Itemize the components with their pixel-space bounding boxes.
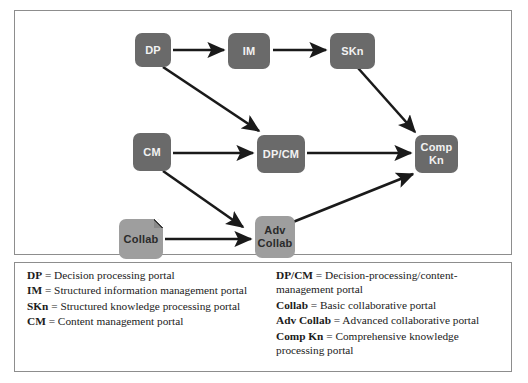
legend-term: DP/CM (276, 269, 313, 281)
legend-definition: Structured information management portal (54, 284, 247, 296)
node-label: CM (143, 146, 161, 159)
edge-cm-to-advcollab (163, 171, 243, 227)
node-dpcm[interactable]: DP/CM (257, 135, 305, 173)
edge-advcollab-to-compkn (293, 174, 413, 222)
legend-term: IM (27, 284, 42, 296)
legend-equals: = (42, 284, 54, 296)
node-label: DP (145, 44, 161, 57)
legend-term: Adv Collab (276, 314, 331, 326)
legend-panel: DP = Decision processing portalIM = Stru… (14, 262, 512, 372)
legend-entry: DP/CM = Decision-processing/content-mana… (276, 268, 503, 297)
legend-term: SKn (27, 300, 48, 312)
node-collab[interactable]: Collab (119, 219, 163, 259)
legend-column-right: DP/CM = Decision-processing/content-mana… (266, 268, 511, 367)
legend-term: Comp Kn (276, 330, 323, 342)
node-label: SKn (341, 45, 364, 58)
legend-entry: Comp Kn = Comprehensive knowledge proces… (276, 329, 503, 358)
legend-entry: CM = Content management portal (27, 314, 258, 328)
node-compkn[interactable]: Comp Kn (415, 135, 458, 173)
node-im[interactable]: IM (228, 33, 270, 69)
legend-equals: = (46, 315, 58, 327)
edge-skn-to-compkn (358, 68, 415, 132)
diagram-panel: DPIMSKnCMDP/CMComp KnCollabAdv Collab (14, 10, 512, 255)
diagram-page: DPIMSKnCMDP/CMComp KnCollabAdv Collab DP… (0, 0, 528, 383)
legend-term: Collab (276, 299, 308, 311)
legend-term: DP (27, 269, 42, 281)
node-dp[interactable]: DP (135, 33, 171, 67)
legend-column-left: DP = Decision processing portalIM = Stru… (15, 268, 266, 367)
legend-definition: Decision processing portal (54, 269, 174, 281)
node-label: Comp Kn (421, 141, 453, 167)
legend-entry: DP = Decision processing portal (27, 268, 258, 282)
legend-equals: = (313, 269, 325, 281)
legend-entry: SKn = Structured knowledge processing po… (27, 299, 258, 313)
node-label: Adv Collab (258, 224, 293, 250)
node-advcollab[interactable]: Adv Collab (255, 216, 295, 258)
node-label: Collab (124, 233, 159, 246)
legend-definition: Structured knowledge processing portal (60, 300, 240, 312)
legend-definition: Advanced collaborative portal (342, 314, 479, 326)
legend-equals: = (323, 330, 335, 342)
edge-dp-to-dpcm (163, 67, 259, 131)
node-cm[interactable]: CM (133, 133, 171, 171)
node-label: DP/CM (263, 148, 299, 161)
node-skn[interactable]: SKn (330, 33, 375, 69)
legend-entry: IM = Structured information management p… (27, 283, 258, 297)
legend-term: CM (27, 315, 46, 327)
legend-entry: Adv Collab = Advanced collaborative port… (276, 313, 503, 327)
legend-equals: = (331, 314, 342, 326)
legend-equals: = (308, 299, 320, 311)
legend-equals: = (42, 269, 54, 281)
legend-definition: Content management portal (58, 315, 184, 327)
node-label: IM (243, 45, 256, 58)
legend-definition: Basic collaborative portal (320, 299, 436, 311)
legend-equals: = (48, 300, 60, 312)
legend-entry: Collab = Basic collaborative portal (276, 298, 503, 312)
